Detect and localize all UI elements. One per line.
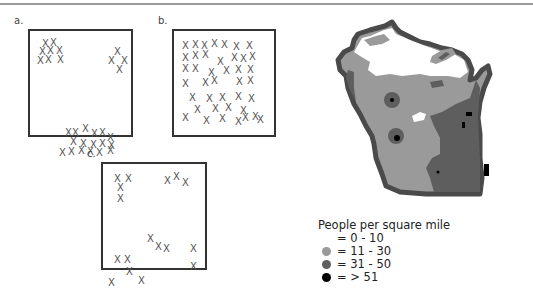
x-mark: X	[182, 41, 189, 51]
legend-label: = > 51	[337, 271, 378, 284]
x-mark: X	[182, 178, 189, 188]
panel-box-clustered: XXXXXXXXXXXXXXXXXXXXXXXXXXXXX	[28, 29, 133, 137]
x-mark: X	[192, 51, 199, 61]
wisconsin-population-density-map	[330, 18, 500, 203]
x-mark: X	[246, 41, 253, 51]
legend-item: = > 51	[318, 271, 450, 284]
x-mark: X	[117, 183, 124, 193]
region-51-plus-4	[466, 112, 472, 116]
x-mark: X	[182, 79, 189, 89]
x-mark: X	[182, 64, 189, 74]
x-mark: X	[221, 40, 228, 50]
region-51-plus-5	[462, 122, 465, 128]
x-mark: X	[202, 50, 209, 60]
panel-label-0: a.	[14, 15, 23, 26]
x-mark: X	[163, 244, 170, 254]
x-mark: X	[219, 114, 226, 124]
panel-box-random: XXXXXXXXXXXXXXXXX	[101, 162, 207, 270]
region-51-plus-6	[437, 171, 440, 174]
x-mark: X	[68, 147, 75, 157]
x-mark: X	[59, 148, 66, 158]
x-mark: X	[82, 124, 89, 134]
panel-box-uniform: XXXXXXXXXXXXXXXXXXXXXXXXXXXXXXXXXXXXXXXX…	[172, 29, 276, 137]
legend-swatch-icon	[322, 260, 331, 269]
x-mark: X	[202, 78, 209, 88]
x-mark: X	[211, 39, 218, 49]
legend-title: People per square mile	[318, 218, 450, 232]
x-mark: X	[231, 53, 238, 63]
x-mark: X	[78, 146, 85, 156]
x-mark: X	[37, 56, 44, 66]
region-51-plus-3	[484, 164, 489, 176]
x-mark: X	[108, 278, 115, 288]
x-mark: X	[233, 42, 240, 52]
x-mark: X	[182, 53, 189, 63]
x-mark: X	[114, 47, 121, 57]
x-mark: X	[240, 54, 247, 64]
x-mark: X	[155, 242, 162, 252]
x-mark: X	[96, 148, 103, 158]
x-mark: X	[194, 105, 201, 115]
x-mark: X	[173, 172, 180, 182]
x-mark: X	[190, 244, 197, 254]
x-mark: X	[138, 276, 145, 286]
x-mark: X	[147, 234, 154, 244]
x-mark: X	[235, 65, 242, 75]
x-mark: X	[249, 52, 256, 62]
x-mark: X	[182, 113, 189, 123]
legend-swatch-icon	[322, 234, 331, 243]
panel-label-1: b.	[158, 15, 168, 26]
x-mark: X	[192, 64, 199, 74]
x-mark: X	[257, 115, 264, 125]
x-mark: X	[107, 146, 114, 156]
x-mark: X	[211, 76, 218, 86]
x-mark: X	[45, 55, 52, 65]
x-mark: X	[114, 255, 121, 265]
x-mark: X	[116, 65, 123, 75]
top-divider	[0, 3, 533, 5]
legend: People per square mile = 0 - 10= 11 - 30…	[318, 218, 450, 284]
x-mark: X	[242, 113, 249, 123]
x-mark: X	[99, 128, 106, 138]
legend-swatch-icon	[322, 247, 331, 256]
x-mark: X	[126, 267, 133, 277]
x-mark: X	[225, 103, 232, 113]
panel-label-2: c.	[87, 148, 96, 159]
x-mark: X	[236, 77, 243, 87]
region-51-plus-2	[394, 135, 400, 141]
x-mark: X	[235, 117, 242, 127]
x-mark: X	[125, 174, 132, 184]
x-mark: X	[117, 194, 124, 204]
x-mark: X	[124, 255, 131, 265]
x-mark: X	[235, 92, 242, 102]
x-mark: X	[247, 76, 254, 86]
x-mark: X	[247, 65, 254, 75]
region-51-plus-1	[390, 98, 394, 102]
x-mark: X	[192, 40, 199, 50]
x-mark: X	[164, 176, 171, 186]
x-mark: X	[223, 66, 230, 76]
x-mark: X	[203, 116, 210, 126]
x-mark: X	[248, 94, 255, 104]
x-mark: X	[57, 55, 64, 65]
x-mark: X	[91, 129, 98, 139]
x-mark: X	[189, 93, 196, 103]
x-mark: X	[108, 56, 115, 66]
legend-swatch-icon	[322, 273, 331, 282]
x-mark: X	[190, 262, 197, 272]
x-mark: X	[212, 104, 219, 114]
